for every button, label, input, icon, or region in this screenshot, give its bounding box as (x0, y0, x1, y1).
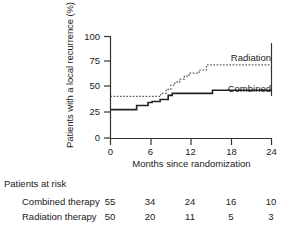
table-row: Combined therapy 55 34 24 16 10 (0, 196, 283, 210)
risk-cell: 34 (139, 196, 161, 207)
y-tick-label-50: 50 (74, 80, 100, 91)
risk-cell: 5 (220, 211, 242, 222)
risk-cell: 50 (99, 211, 121, 222)
x-tick-label-6: 6 (139, 146, 162, 157)
risk-cell: 20 (139, 211, 161, 222)
risk-cell: 10 (260, 196, 282, 207)
series-label-combined: Combined (212, 83, 271, 94)
y-axis-title: Patients with a local recurrence (%) (58, 0, 80, 150)
x-axis-title: Months since randomization (110, 158, 273, 169)
y-tick-label-100: 100 (74, 31, 100, 42)
patients-at-risk-title: Patients at risk (4, 178, 66, 189)
table-row: Radiation therapy 50 20 11 5 3 (0, 211, 283, 225)
y-tick-label-0: 0 (74, 132, 100, 143)
risk-cell: 55 (99, 196, 121, 207)
risk-cell: 11 (179, 211, 201, 222)
chart-area: Patients with a local recurrence (%) 100… (0, 0, 283, 176)
series-label-radiation: Radiation (215, 52, 271, 63)
x-tick-label-12: 12 (179, 146, 202, 157)
y-tick-label-75: 75 (74, 55, 100, 66)
patients-at-risk-table: Patients at risk Combined therapy 55 34 … (0, 178, 283, 234)
risk-cell: 16 (220, 196, 242, 207)
x-tick-label-0: 0 (99, 146, 122, 157)
x-tick-label-18: 18 (220, 146, 243, 157)
y-tick-label-25: 25 (74, 106, 100, 117)
figure-root: Patients with a local recurrence (%) 100… (0, 0, 283, 234)
y-axis-ticks (104, 37, 110, 139)
x-tick-label-24: 24 (260, 146, 283, 157)
risk-cell: 24 (179, 196, 201, 207)
y-axis-title-text: Patients with a local recurrence (%) (64, 2, 75, 148)
risk-cell: 3 (260, 211, 282, 222)
